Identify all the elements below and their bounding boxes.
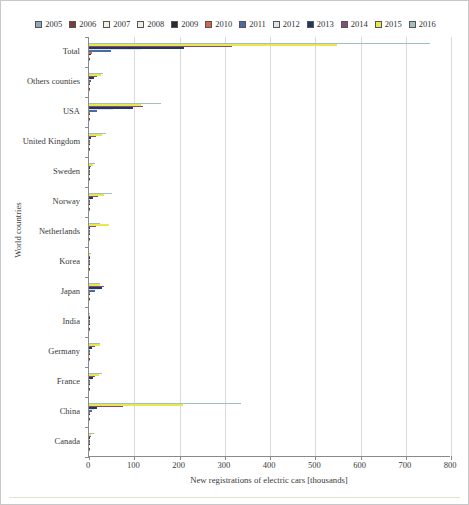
y-axis-category-label: Total [63, 47, 80, 56]
x-axis-tick-labels: 0100200300400500600700800 [88, 460, 450, 474]
y-axis-category-label: India [63, 317, 80, 326]
y-axis-category-label: Norway [53, 197, 80, 206]
y-axis-category-label: China [60, 407, 80, 416]
y-axis-tick [85, 337, 89, 338]
y-axis-category-label: USA [63, 107, 80, 116]
y-axis-tick [85, 307, 89, 308]
x-axis-tick-label: 400 [263, 460, 276, 470]
x-axis-tick-label: 100 [127, 460, 140, 470]
y-axis-category-label: Netherlands [39, 227, 80, 236]
legend-item-2007[interactable]: 2007 [103, 19, 130, 29]
bar-2005[interactable] [89, 210, 90, 212]
plot-area [88, 37, 450, 457]
bar-2005[interactable] [89, 450, 90, 452]
bar-2005[interactable] [89, 60, 90, 62]
legend-swatch-icon [69, 21, 76, 28]
y-axis-category-label: United Kingdom [23, 137, 80, 146]
y-axis-tick [85, 97, 89, 98]
legend-swatch-icon [273, 21, 280, 28]
legend-label: 2014 [351, 19, 368, 29]
x-axis-tick-label: 500 [308, 460, 321, 470]
legend-item-2012[interactable]: 2012 [273, 19, 300, 29]
y-axis-tick [85, 127, 89, 128]
x-axis-tick-label: 300 [217, 460, 230, 470]
gridline [451, 37, 452, 456]
bar-2005[interactable] [89, 330, 90, 332]
legend-label: 2015 [385, 19, 402, 29]
bar-2005[interactable] [89, 390, 90, 392]
bar-2005[interactable] [89, 150, 90, 152]
y-axis-tick [85, 367, 89, 368]
bar-2005[interactable] [89, 360, 90, 362]
y-axis-category-label: Korea [59, 257, 80, 266]
bar-2005[interactable] [89, 240, 90, 242]
legend-label: 2006 [79, 19, 96, 29]
bar-2005[interactable] [89, 90, 90, 92]
gridline [361, 37, 362, 456]
gridline [134, 37, 135, 456]
legend-swatch-icon [307, 21, 314, 28]
x-axis-title: New registrations of electric cars [thou… [88, 475, 450, 485]
legend-swatch-icon [341, 21, 348, 28]
x-axis-tick-label: 700 [398, 460, 411, 470]
legend-label: 2009 [181, 19, 198, 29]
x-axis-tick-label: 600 [353, 460, 366, 470]
legend-item-2014[interactable]: 2014 [341, 19, 368, 29]
y-axis-tick [85, 277, 89, 278]
legend-item-2006[interactable]: 2006 [69, 19, 96, 29]
y-axis-tick [85, 457, 89, 458]
x-axis-tick-label: 800 [444, 460, 457, 470]
y-axis-tick [85, 397, 89, 398]
legend-swatch-icon [239, 21, 246, 28]
legend-label: 2010 [215, 19, 232, 29]
y-axis-category-label: Others counties [27, 77, 80, 86]
legend-label: 2012 [283, 19, 300, 29]
bar-2005[interactable] [89, 300, 90, 302]
y-axis-tick [85, 67, 89, 68]
y-axis-category-label: Canada [55, 437, 81, 446]
x-axis-tick-label: 200 [172, 460, 185, 470]
legend-label: 2008 [147, 19, 164, 29]
legend-item-2008[interactable]: 2008 [137, 19, 164, 29]
gridline [406, 37, 407, 456]
legend-item-2015[interactable]: 2015 [375, 19, 402, 29]
bar-2005[interactable] [89, 180, 90, 182]
y-axis-category-label: Germany [48, 347, 80, 356]
legend-swatch-icon [375, 21, 382, 28]
legend-label: 2011 [249, 19, 266, 29]
legend-label: 2013 [317, 19, 334, 29]
bar-2005[interactable] [89, 120, 90, 122]
y-axis-tick [85, 187, 89, 188]
legend-swatch-icon [409, 21, 416, 28]
gridline [270, 37, 271, 456]
y-axis-title: World countries [13, 175, 23, 285]
legend-item-2005[interactable]: 2005 [35, 19, 62, 29]
x-axis-tick-label: 0 [86, 460, 90, 470]
legend-swatch-icon [103, 21, 110, 28]
legend-item-2011[interactable]: 2011 [239, 19, 266, 29]
bar-2005[interactable] [89, 270, 90, 272]
legend-swatch-icon [205, 21, 212, 28]
chart-legend: 2005200620072008200920102011201220132014… [1, 19, 469, 29]
y-axis-category-label: France [57, 377, 80, 386]
y-axis-tick [85, 157, 89, 158]
y-axis-tick [85, 217, 89, 218]
chart-figure: 2005200620072008200920102011201220132014… [0, 0, 469, 505]
bar-2011[interactable] [89, 50, 111, 52]
legend-item-2013[interactable]: 2013 [307, 19, 334, 29]
gridline [225, 37, 226, 456]
legend-item-2016[interactable]: 2016 [409, 19, 436, 29]
legend-label: 2016 [419, 19, 436, 29]
y-axis-tick [85, 247, 89, 248]
legend-item-2010[interactable]: 2010 [205, 19, 232, 29]
y-axis-category-label: Sweden [53, 167, 80, 176]
bar-2011[interactable] [89, 110, 97, 112]
y-axis-category-label: Japan [61, 287, 80, 296]
legend-label: 2005 [45, 19, 62, 29]
y-axis-tick [85, 427, 89, 428]
legend-swatch-icon [35, 21, 42, 28]
legend-swatch-icon [137, 21, 144, 28]
bar-2005[interactable] [89, 420, 90, 422]
y-axis-tick [85, 37, 89, 38]
legend-item-2009[interactable]: 2009 [171, 19, 198, 29]
